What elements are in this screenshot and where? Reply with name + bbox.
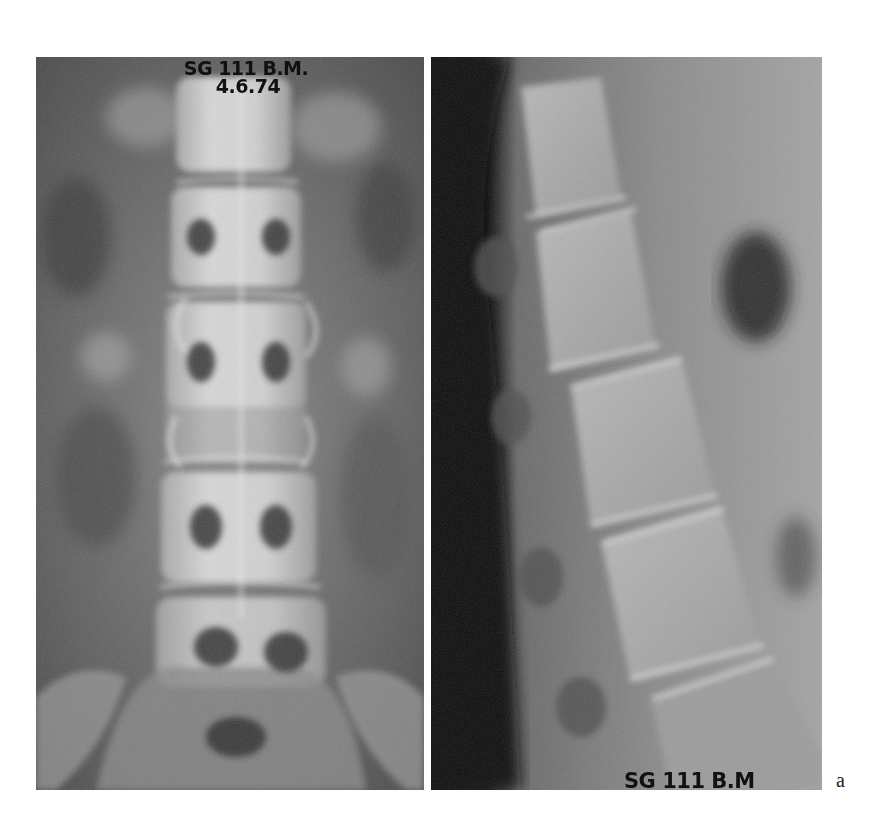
figure-panel-letter: a: [836, 769, 845, 792]
xray-panel-ap: SG 111 B.M. 4.6.74: [36, 57, 424, 790]
ap-date-label: 4.6.74: [54, 76, 424, 96]
lateral-patient-label: SG 111 B.M: [624, 770, 755, 790]
xray-panel-lateral: SG 111 B.M: [431, 57, 822, 790]
lateral-spine-image: [431, 57, 822, 790]
ap-spine-image: [36, 57, 424, 790]
